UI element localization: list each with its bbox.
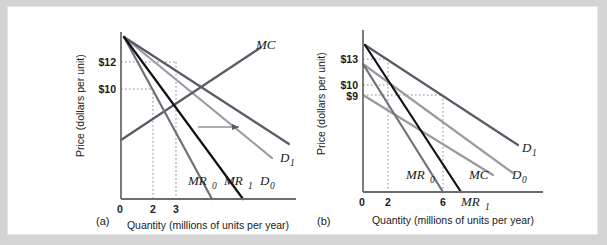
y-axis-title-a: Price (dollars per unit): [74, 54, 86, 157]
curve-label-MR0-sub-b: 0: [430, 175, 435, 185]
x-tick-b-1: 6: [440, 196, 446, 208]
curve-label-MR0-sub-a: 0: [212, 181, 217, 191]
origin-label-b: 0: [359, 196, 365, 208]
y-axis-title-b: Price (dollars per unit): [315, 52, 327, 155]
economics-figure: Price (dollars per unit) Quantity (milli…: [0, 0, 607, 245]
panel-caption-a: (a): [96, 215, 109, 227]
curve-label-MC-b: MC: [468, 167, 489, 182]
curve-label-D0-b: D: [511, 167, 522, 182]
y-tick-a-1: $10: [98, 83, 116, 95]
curve-label-MR1-a: MR: [223, 173, 243, 188]
curve-label-D1-b: D: [521, 140, 532, 155]
curve-label-MR1-sub-b: 1: [485, 202, 490, 212]
curve-label-D1-sub-a: 1: [290, 158, 295, 168]
panel-a: Price (dollars per unit) Quantity (milli…: [8, 7, 303, 234]
curve-MR0: [363, 64, 443, 192]
x-tick-b-0: 2: [385, 196, 391, 208]
curve-MC: [363, 95, 493, 175]
y-tick-a-0: $12: [98, 56, 116, 68]
curve-label-D0-sub-b: 0: [522, 175, 527, 185]
x-tick-a-0: 2: [150, 203, 156, 215]
curve-label-D0-sub-a: 0: [270, 181, 275, 191]
curve-label-MR1-sub-a: 1: [248, 181, 253, 191]
curve-label-D0-a: D: [259, 173, 270, 188]
figure-canvas: Price (dollars per unit) Quantity (milli…: [8, 7, 597, 234]
curve-label-MR1-b: MR: [460, 194, 480, 209]
x-axis-title-b: Quantity (millions of units per year): [372, 214, 534, 226]
panel-a-plot: Price (dollars per unit) Quantity (milli…: [8, 7, 303, 234]
curve-label-MR0-a: MR: [187, 173, 207, 188]
curve-label-MC-a: MC: [255, 37, 276, 52]
panel-caption-b: (b): [317, 215, 330, 227]
curve-label-MR0-b: MR: [405, 167, 425, 182]
curve-label-D1-sub-b: 1: [532, 148, 537, 158]
origin-label-a: 0: [117, 203, 123, 215]
panel-b-plot: Price (dollars per unit) Quantity (milli…: [303, 7, 598, 234]
y-tick-b-0: $13: [340, 53, 358, 65]
panel-b: Price (dollars per unit) Quantity (milli…: [303, 7, 598, 234]
x-axis-title-a: Quantity (millions of units per year): [127, 219, 289, 231]
curve-label-D1-a: D: [279, 150, 290, 165]
x-tick-a-1: 3: [173, 203, 179, 215]
demand-shift-arrow: [198, 124, 239, 130]
curve-D1: [124, 37, 289, 144]
y-tick-b-2: $9: [346, 90, 358, 102]
